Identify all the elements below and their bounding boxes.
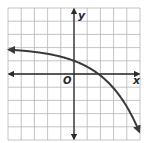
y-axis-label: y [78, 9, 86, 22]
coordinate-graph: y x O [0, 0, 148, 143]
x-axis-label: x [132, 74, 141, 87]
origin-label: O [63, 75, 72, 86]
